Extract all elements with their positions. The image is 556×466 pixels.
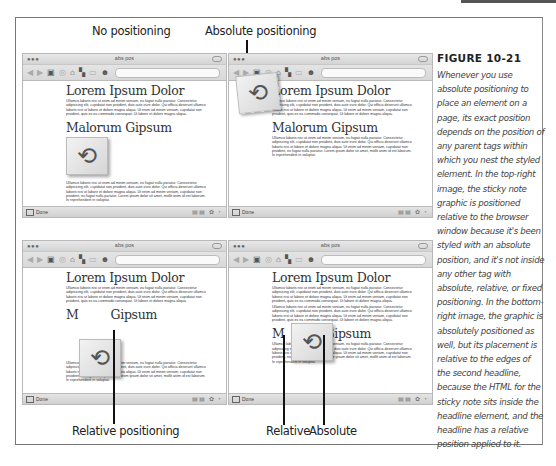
window-title: abs pos [23,242,226,248]
favicon-icon[interactable]: ☻ [101,69,109,77]
browser-window-relative: ●●● abs pos ◀ ▶ ▣ ◎ ⌂ ▚ ▭ ☻ Lorem Ipsum … [22,240,227,405]
status-bar: Done ▤▤ ✿ ◔ [23,393,226,404]
status-icons[interactable]: ▤▤ ✿ ◔ [398,208,428,215]
browser-window-absolute: ●●● abs pos ◀ ▶ ▣ ◎ ⌂ ▚ ▭ ☻ Lorem Ipsum … [228,53,433,218]
tabs-icon[interactable]: ▚ [79,69,85,77]
status-panel-icon[interactable] [26,209,34,216]
status-bar: Done ▤▤ ✿ ◔ [23,206,226,217]
paragraph-1: Ullamco laboris nisi ut enim ad minim ve… [272,99,412,116]
toolbar-toggle-button[interactable] [418,243,428,249]
toolbar-toggle-button[interactable] [212,243,222,249]
print-icon[interactable]: ▭ [295,256,303,264]
status-text: Done [36,396,48,402]
heading-lorem: Lorem Ipsum Dolor [66,81,226,98]
browser-window-relative-absolute: ●●● abs pos ◀ ▶ ▣ ◎ ⌂ ▚ ▭ ☻ Lorem Ipsum … [228,240,433,405]
status-panel-icon[interactable] [232,396,240,403]
home-icon[interactable]: ⌂ [70,69,75,77]
window-title: abs pos [229,55,432,61]
label-absolute: Absolute [309,424,357,438]
toolbar: ◀ ▶ ▣ ◎ ⌂ ▚ ▭ ☻ [229,252,432,268]
url-field[interactable] [321,255,426,265]
window-title: abs pos [229,242,432,248]
heading-lorem: Lorem Ipsum Dolor [66,268,226,285]
heading-malorum: Malorum Gipsum [272,118,432,135]
paragraph-2: Ullamco laboris nisi ut enim ad minim ve… [66,181,206,202]
page-content: Lorem Ipsum Dolor Ullamco laboris nisi u… [23,81,226,206]
figure-caption: FIGURE 10-21 Whenever you use absolute p… [437,52,545,451]
forward-icon[interactable]: ▶ [243,256,249,264]
browser-window-no-positioning: ●●● abs pos ◀ ▶ ▣ ◎ ⌂ ▚ ▭ ☻ Lorem Ipsum … [22,53,227,218]
sticky-note-icon: ⟲ [66,137,108,175]
title-bar: ●●● abs pos [229,54,432,65]
bookmarks-icon[interactable]: ▣ [47,256,55,264]
status-icons[interactable]: ▤▤ ✿ ◔ [192,395,222,402]
status-text: Done [242,209,254,215]
favicon-icon[interactable]: ☻ [307,69,315,77]
favicon-icon[interactable]: ☻ [307,256,315,264]
toolbar-toggle-button[interactable] [212,56,222,62]
leader-line-relative [283,335,285,425]
back-icon[interactable]: ◀ [27,256,33,264]
bookmarks-icon[interactable]: ▣ [47,69,55,77]
toolbar-toggle-button[interactable] [418,56,428,62]
forward-icon[interactable]: ▶ [37,69,43,77]
forward-icon[interactable]: ▶ [37,256,43,264]
print-icon[interactable]: ▭ [89,256,97,264]
leader-line-absolute-bottom [323,335,325,425]
status-icons[interactable]: ▤▤ ✿ ◔ [192,208,222,215]
status-bar: Done ▤▤ ✿ ◔ [229,393,432,404]
url-field[interactable] [321,68,426,78]
window-title: abs pos [23,55,226,61]
stop-icon[interactable]: ◎ [59,69,66,77]
home-icon[interactable]: ⌂ [70,256,75,264]
title-bar: ●●● abs pos [23,241,226,252]
status-text: Done [242,396,254,402]
tabs-icon[interactable]: ▚ [79,256,85,264]
sticky-note-icon: ⟲ [79,339,121,377]
status-icons[interactable]: ▤▤ ✿ ◔ [398,395,428,402]
label-no-positioning: No positioning [92,24,170,38]
paragraph-2: Ullamco laboris nisi ut enim ad minim ve… [272,136,412,157]
toolbar: ◀ ▶ ▣ ◎ ⌂ ▚ ▭ ☻ [23,252,226,268]
status-panel-icon[interactable] [26,396,34,403]
label-relative: Relative [266,424,310,438]
stop-icon[interactable]: ◎ [265,256,272,264]
heading-malorum-left: M [66,307,79,322]
paragraph-1: Ullamco laboris nisi ut enim ad minim ve… [66,99,206,116]
sticky-note-icon: ⟲ [291,323,333,361]
status-bar: Done ▤▤ ✿ ◔ [229,206,432,217]
toolbar: ◀ ▶ ▣ ◎ ⌂ ▚ ▭ ☻ [23,65,226,81]
sticky-note-icon: ⟲ [235,72,281,114]
heading-malorum: MGipsum [66,305,226,322]
paragraph-1: Ullamco laboris nisi ut enim ad minim ve… [66,286,206,303]
back-icon[interactable]: ◀ [27,69,33,77]
page-tab-marker [461,0,556,3]
url-field[interactable] [115,68,220,78]
page-content: Lorem Ipsum Dolor Ullamco laboris nisi u… [23,268,226,393]
tabs-icon[interactable]: ▚ [285,69,291,77]
favicon-icon[interactable]: ☻ [101,256,109,264]
title-bar: ●●● abs pos [229,241,432,252]
heading-malorum: Malorum Gipsum [66,118,226,135]
tabs-icon[interactable]: ▚ [285,256,291,264]
figure-caption-text: Whenever you use absolute positioning to… [437,68,545,451]
bookmarks-icon[interactable]: ▣ [253,256,261,264]
stop-icon[interactable]: ◎ [59,256,66,264]
heading-lorem: Lorem Ipsum Dolor [272,81,432,98]
figure-number: FIGURE 10-21 [437,52,545,64]
print-icon[interactable]: ▭ [89,69,97,77]
back-icon[interactable]: ◀ [233,256,239,264]
label-relative-positioning: Relative positioning [72,424,179,438]
paragraph-1: Ullamco laboris nisi ut enim ad minim ve… [272,286,412,303]
paragraph-1-repeat: Ullamco laboris nisi ut enim ad minim ve… [272,305,412,322]
heading-malorum-right: Gipsum [111,307,158,322]
status-text: Done [36,209,48,215]
label-absolute-positioning: Absolute positioning [205,24,316,38]
title-bar: ●●● abs pos [23,54,226,65]
leader-line-relative-positioning [113,330,115,424]
print-icon[interactable]: ▭ [295,69,303,77]
home-icon[interactable]: ⌂ [276,256,281,264]
url-field[interactable] [115,255,220,265]
status-panel-icon[interactable] [232,209,240,216]
heading-lorem: Lorem Ipsum Dolor [272,268,432,285]
